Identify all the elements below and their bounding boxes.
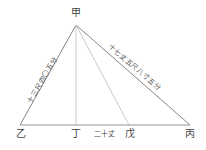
vertex-label-point: 戊: [125, 129, 135, 139]
vertex-label-apex: 甲: [71, 8, 81, 18]
vertex-label-foot: 丁: [71, 129, 81, 139]
median-line: [76, 25, 129, 125]
side-apex-right: [76, 25, 190, 125]
bottom-segment-length: 二十丈: [94, 131, 115, 138]
vertex-label-right: 丙: [185, 129, 195, 139]
triangle-diagram: [0, 0, 206, 150]
vertex-label-left: 乙: [16, 129, 26, 139]
